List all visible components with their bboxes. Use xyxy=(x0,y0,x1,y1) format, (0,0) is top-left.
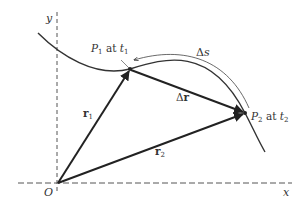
origin-label: O xyxy=(44,186,53,199)
r2-label: r2 xyxy=(155,145,165,159)
r2-vector xyxy=(58,114,243,183)
r1-vector xyxy=(58,71,129,183)
y-axis-label: y xyxy=(45,12,53,25)
p2-dot xyxy=(243,111,247,115)
p1-label: P1 at t1 xyxy=(90,42,128,56)
delta-s-label: Δs xyxy=(196,46,210,59)
trajectory-curve xyxy=(38,33,265,152)
vectors xyxy=(58,70,243,183)
delta-r-label: Δr xyxy=(176,91,190,103)
p1-leader xyxy=(121,60,129,68)
displacement-diagram: y x O P1 at t1 P2 at t2 r1 r2 Δr Δs xyxy=(0,0,308,211)
p2-label: P2 at t2 xyxy=(250,110,288,124)
r1-label: r1 xyxy=(83,107,93,121)
axes xyxy=(18,12,292,192)
x-axis-label: x xyxy=(283,186,290,199)
